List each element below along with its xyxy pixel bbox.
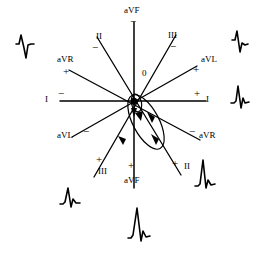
label-avf-negative: aVF — [124, 6, 140, 15]
label-ii-negative: II — [96, 32, 102, 41]
qrs-vector-loop — [120, 89, 171, 154]
ecg-trace-bottom — [128, 208, 150, 241]
label-avf-positive: aVF — [124, 176, 140, 185]
arrowhead-3 — [118, 136, 126, 145]
origin-label: 0 — [142, 69, 147, 78]
ecg-trace-right — [231, 86, 249, 108]
sign-avl-positive: + — [193, 64, 199, 75]
sign-avr-positive: + — [63, 66, 69, 77]
label-avl-positive: aVL — [201, 55, 217, 64]
label-i-positive: I — [206, 95, 209, 104]
ecg-trace-bottom-right — [195, 160, 215, 188]
sign-ii-positive: + — [172, 158, 178, 169]
ecg-trace-bottom-left — [60, 188, 80, 207]
label-avr-positive: aVR — [57, 55, 74, 64]
label-avr-negative: aVR — [199, 131, 216, 140]
sign-avr-negative: − — [189, 126, 195, 137]
hexaxial-diagram — [0, 0, 268, 255]
ecg-trace-top-right — [232, 31, 248, 52]
label-ii-positive: II — [184, 162, 190, 171]
ecg-trace-left — [16, 35, 34, 58]
sign-iii-negative: − — [170, 41, 176, 52]
label-avl-negative: aVL — [57, 131, 73, 140]
sign-ii-negative: − — [92, 42, 98, 53]
label-iii-positive: III — [98, 167, 107, 176]
sign-i-negative: − — [58, 88, 64, 99]
sign-avl-negative: − — [83, 126, 89, 137]
vector-loop-ellipse — [120, 89, 171, 154]
label-iii-negative: III — [168, 31, 177, 40]
figure-canvas: aVF − II − III − aVR + aVL + I − + I 0 a… — [0, 0, 268, 255]
sign-iii-positive: + — [96, 154, 102, 165]
sign-avf-positive: + — [128, 160, 134, 171]
sign-avf-negative: − — [130, 16, 136, 27]
sign-i-positive: + — [194, 88, 200, 99]
arrowhead-ii-down — [135, 111, 143, 121]
label-i-negative: I — [45, 95, 48, 104]
axis-line-lead-II — [97, 37, 181, 175]
